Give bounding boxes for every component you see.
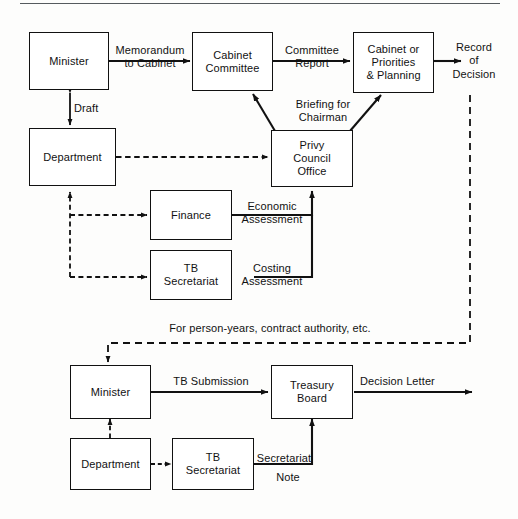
node-treasury-board[interactable]: Treasury Board (271, 365, 353, 419)
node-minister-bottom[interactable]: Minister (70, 365, 151, 419)
node-privy-council-office-label: Privy Council Office (291, 139, 332, 178)
edge-label-secretariat: Secretariat (254, 452, 314, 465)
edge-pco-to-cabinet-committee (253, 94, 275, 131)
node-minister-top[interactable]: Minister (29, 32, 109, 90)
node-cabinet-or-priorities[interactable]: Cabinet or Priorities & Planning (353, 32, 434, 93)
node-tb-secretariat-bottom[interactable]: TB Secretariat (172, 438, 254, 490)
edge-label-tb-submission: TB Submission (155, 375, 267, 388)
flowchart-diagram: Minister Department Cabinet Committee Ca… (0, 0, 518, 519)
terminal-record-of-decision: Record of Decision (443, 41, 505, 81)
node-privy-council-office[interactable]: Privy Council Office (271, 130, 353, 187)
node-minister-top-label: Minister (47, 55, 90, 68)
edge-label-committee-report: Committee Report (274, 44, 350, 71)
edge-label-draft: Draft (74, 102, 114, 115)
node-tb-secretariat-bottom-label: TB Secretariat (184, 451, 242, 477)
node-department-bottom-label: Department (79, 458, 141, 471)
node-cabinet-or-priorities-label: Cabinet or Priorities & Planning (364, 43, 422, 82)
node-department-top-label: Department (41, 151, 103, 164)
node-finance[interactable]: Finance (150, 190, 232, 240)
node-department-top[interactable]: Department (29, 128, 116, 186)
node-department-bottom[interactable]: Department (70, 438, 151, 490)
note-person-years: For person-years, contract authority, et… (110, 322, 430, 335)
edge-label-memorandum-to-cabinet: Memorandum to Cabinet (110, 44, 190, 71)
terminal-decision-letter: Decision Letter (360, 375, 470, 388)
edge-label-note: Note (258, 471, 318, 484)
edge-label-economic-assessment: Economic Assessment (230, 200, 314, 227)
node-tb-secretariat-top[interactable]: TB Secretariat (150, 250, 232, 300)
node-cabinet-committee[interactable]: Cabinet Committee (192, 32, 273, 91)
edge-label-briefing-for-chairman: Briefing for Chairman (277, 98, 369, 125)
node-tb-secretariat-top-label: TB Secretariat (162, 262, 220, 288)
node-cabinet-committee-label: Cabinet Committee (203, 49, 261, 75)
node-treasury-board-label: Treasury Board (288, 379, 336, 405)
edge-label-costing-assessment: Costing Assessment (230, 262, 314, 289)
node-minister-bottom-label: Minister (89, 386, 132, 399)
node-finance-label: Finance (169, 209, 213, 222)
